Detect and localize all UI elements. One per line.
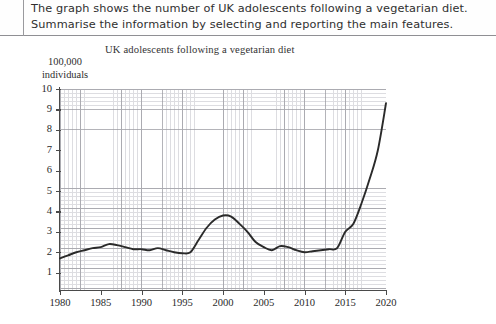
y-axis-tick-label: 6 [26,164,52,175]
x-axis-tick-label: 1985 [81,297,121,308]
x-axis-tick-label: 1990 [122,297,162,308]
x-axis-tick [305,290,306,295]
task-prompt-text: The graph shows the number of UK adolesc… [31,1,481,32]
x-axis-tick-label: 1980 [40,297,80,308]
y-axis-tick-label: 1 [26,266,52,277]
data-series-line [60,103,386,258]
x-axis-tick-label: 2020 [366,297,406,308]
task-prompt-box: The graph shows the number of UK adolesc… [0,0,496,36]
y-axis-tick-label: 10 [26,83,52,94]
y-axis-tick-label: 7 [26,144,52,155]
x-axis-tick [264,290,265,295]
x-axis-tick-label: 2015 [325,297,365,308]
chart-area: UK adolescents following a vegetarian di… [0,36,496,324]
x-axis-tick [101,290,102,295]
task-prompt-line-2: Summarise the information by selecting a… [31,17,481,33]
x-axis-tick [386,290,387,295]
data-series-svg [60,89,386,290]
x-axis-tick [60,290,61,295]
y-axis-tick-label: 4 [26,205,52,216]
y-axis-tick-label: 9 [26,103,52,114]
x-axis-tick [182,290,183,295]
chart-title: UK adolescents following a vegetarian di… [105,44,295,55]
y-axis-tick-label: 2 [26,246,52,257]
task-prompt-line-1: The graph shows the number of UK adolesc… [31,1,481,17]
prompt-left-rule [23,0,24,36]
y-axis-unit-line-2: individuals [22,69,108,82]
x-axis-tick [345,290,346,295]
x-axis-tick-label: 2010 [285,297,325,308]
y-axis-tick-label: 3 [26,225,52,236]
x-axis-tick-label: 1995 [162,297,202,308]
x-axis-tick-label: 2000 [203,297,243,308]
y-axis-unit-caption: 100,000 individuals [22,56,108,81]
screenshot-root: The graph shows the number of UK adolesc… [0,0,496,324]
y-axis-unit-line-1: 100,000 [22,56,108,69]
plot-region: 10987654321 1980198519901995200020052010… [60,89,386,290]
x-axis-tick [142,290,143,295]
x-axis-tick-label: 2005 [244,297,284,308]
y-axis-tick-label: 8 [26,123,52,134]
y-axis-tick-label: 5 [26,185,52,196]
x-axis-tick [223,290,224,295]
